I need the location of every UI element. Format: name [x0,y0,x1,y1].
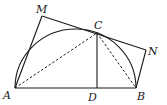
label-M: M [35,3,48,16]
segment-AM [15,16,42,88]
semicircle-arc [15,29,136,88]
label-N: N [147,45,158,58]
segment-NB [136,50,146,88]
label-C: C [94,19,103,32]
dashed-CB [97,33,136,88]
label-B: B [136,90,145,103]
label-A: A [2,89,11,102]
diagram-svg: M C N A D B [0,0,167,105]
dashed-AC [15,33,97,88]
label-D: D [87,91,97,104]
geometry-diagram: M C N A D B [0,0,167,105]
